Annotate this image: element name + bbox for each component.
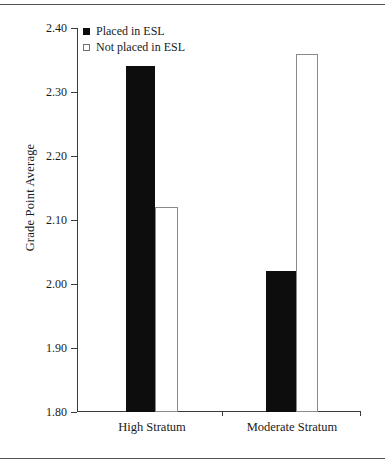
legend-label: Not placed in ESL [96,41,185,54]
plot-area [77,28,360,412]
x-axis-category-label: Moderate Stratum [212,420,372,434]
y-axis-tick-label: 2.30 [23,86,67,98]
y-axis-tick-label: 2.00 [23,278,67,290]
bar-placed-in-esl [126,66,155,412]
x-axis-category-label: High Stratum [72,420,232,434]
x-axis-tick [360,411,361,416]
y-axis-tick [71,412,77,413]
legend: Placed in ESL Not placed in ESL [83,24,185,56]
y-axis-title: Grade Point Average [23,103,38,293]
y-axis-tick-label: 1.90 [23,342,67,354]
filled-square-icon [83,28,90,35]
y-axis-tick-label: 2.20 [23,150,67,162]
legend-label: Placed in ESL [96,25,165,38]
y-axis-tick-label: 2.10 [23,214,67,226]
open-square-icon [83,44,90,51]
bar-not-placed-in-esl [155,207,178,412]
top-rule [0,4,385,5]
bar-not-placed-in-esl [296,54,318,412]
y-axis-tick-label: 1.80 [23,406,67,418]
y-axis-tick-label: 2.40 [23,22,67,34]
bottom-rule [0,458,385,459]
figure: Grade Point Average 2.402.302.202.102.00… [0,0,385,470]
legend-item-not-placed: Not placed in ESL [83,40,185,55]
legend-item-placed: Placed in ESL [83,24,185,39]
bar-placed-in-esl [266,271,296,412]
